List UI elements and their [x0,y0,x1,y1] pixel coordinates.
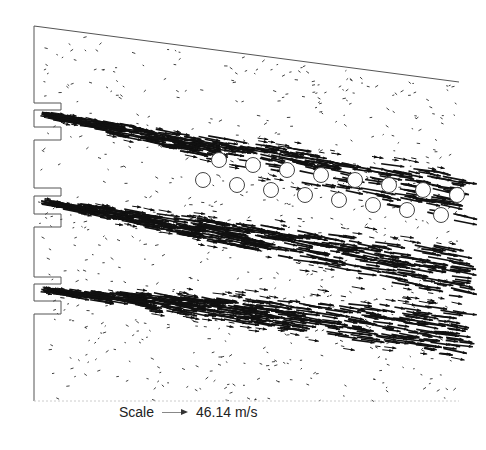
velocity-vector [280,215,282,216]
velocity-vector [209,218,212,219]
velocity-vector [254,73,255,74]
velocity-vector [46,64,48,65]
velocity-vector [296,263,300,264]
velocity-vector [302,96,305,97]
velocity-vector [398,142,399,143]
velocity-vector [449,323,450,324]
obstacle-circle [382,178,397,193]
velocity-vector [148,116,150,117]
velocity-vector [84,221,87,222]
velocity-vector [188,197,191,199]
velocity-vector [282,97,284,98]
velocity-vector [85,50,86,51]
velocity-vector [113,71,115,72]
velocity-vector [392,135,395,136]
velocity-vector [436,237,438,238]
obstacle-circle [298,188,313,203]
velocity-vector [259,136,261,137]
velocity-vector [94,342,96,343]
velocity-vector [172,178,174,179]
velocity-vector [70,357,72,358]
velocity-vector [235,73,237,75]
obstacle-circle [246,158,261,173]
velocity-vector [440,339,443,341]
velocity-vector [452,86,455,87]
velocity-vector [345,260,348,261]
velocity-vector [319,152,325,153]
velocity-vector [410,356,411,357]
velocity-vector [426,157,429,158]
velocity-vector [162,385,164,387]
velocity-vector [200,90,203,91]
velocity-vector [129,361,131,362]
scale-label: Scale [119,404,154,420]
velocity-vector-head [195,317,199,320]
velocity-vector-head [331,268,335,271]
velocity-vector [263,347,266,349]
velocity-vector [311,274,313,275]
velocity-vector [64,310,66,311]
velocity-vector [242,57,245,58]
velocity-vector [375,346,380,347]
velocity-vector [149,330,151,331]
velocity-vector [285,334,287,336]
velocity-vector [143,65,145,66]
velocity-vector [43,148,45,150]
velocity-vector [318,267,323,268]
velocity-vector [74,245,76,246]
velocity-vector [71,368,74,369]
velocity-vector [118,267,120,268]
velocity-vector [361,206,364,207]
velocity-vector [70,49,73,51]
velocity-vector [52,279,54,280]
velocity-vector [342,90,343,91]
velocity-vector [419,280,420,281]
velocity-vector [209,123,211,124]
velocity-vector [44,82,46,83]
velocity-vector [289,280,291,281]
velocity-vector [182,368,185,369]
velocity-vector [111,91,113,92]
velocity-vector [358,190,360,191]
velocity-vector [433,150,435,151]
velocity-vector [157,367,160,368]
velocity-vector [77,197,79,198]
velocity-vector [440,118,442,119]
velocity-vector [142,339,144,340]
velocity-vector [45,48,48,49]
velocity-vector [455,211,457,213]
velocity-vector [264,123,267,125]
velocity-vector [230,392,233,393]
velocity-vector [319,103,322,104]
velocity-vector [306,71,309,73]
velocity-vector [45,217,47,218]
velocity-vector [56,54,58,55]
velocity-vector [69,44,71,45]
velocity-vector [303,297,305,298]
velocity-vector [429,383,431,384]
velocity-vector [446,280,448,281]
velocity-vector [49,274,51,275]
velocity-vector [219,120,222,122]
velocity-vector [47,258,50,259]
velocity-vector [214,201,217,203]
velocity-vector [216,175,219,176]
velocity-vector [374,299,377,300]
velocity-vector [327,296,329,297]
velocity-vector-head [228,291,232,294]
velocity-vector [152,399,155,400]
velocity-vector [103,181,106,182]
obstacle-circle [280,163,295,178]
velocity-vector [436,243,441,244]
velocity-vector-head [167,210,171,213]
velocity-vector [346,89,349,91]
velocity-vector [365,224,367,226]
velocity-vector [294,195,295,196]
velocity-vector [432,114,435,115]
velocity-vector [70,137,71,138]
velocity-vector [192,129,194,130]
velocity-vector [330,150,335,151]
velocity-vector [405,221,406,222]
scale-value: 46.14 m/s [196,404,257,420]
velocity-vector [71,83,74,84]
